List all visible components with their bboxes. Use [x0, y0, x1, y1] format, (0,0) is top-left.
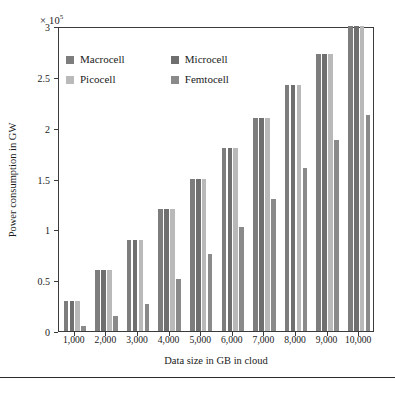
legend-swatch-icon [171, 76, 179, 84]
x-axis-title: Data size in GB in cloud [58, 355, 374, 366]
x-tick-mark [137, 332, 138, 336]
legend: MacrocellMicrocellPicocellFemtocell [66, 54, 251, 85]
legend-label: Femtocell [185, 74, 229, 85]
bar-picocell [360, 26, 365, 331]
bar-femtocell [208, 254, 213, 331]
y-tick-label: 2 [45, 123, 50, 134]
bar-microcell [70, 301, 75, 332]
bar-group [343, 28, 375, 331]
y-tick-mark [54, 129, 58, 130]
legend-label: Picocell [80, 74, 115, 85]
bar-femtocell [81, 326, 86, 331]
bar-group [312, 28, 344, 331]
x-tick-mark [169, 332, 170, 336]
bar-microcell [164, 209, 169, 331]
y-tick-mark [54, 180, 58, 181]
bar-macrocell [64, 301, 69, 332]
legend-item-femtocell[interactable]: Femtocell [171, 74, 251, 85]
legend-item-macrocell[interactable]: Macrocell [66, 54, 147, 65]
legend-item-picocell[interactable]: Picocell [66, 74, 147, 85]
bar-microcell [354, 26, 359, 331]
bar-femtocell [334, 140, 339, 331]
y-tick-label: 2.5 [38, 72, 51, 83]
bar-macrocell [222, 148, 227, 331]
bar-macrocell [95, 270, 100, 331]
y-tick-label: 1 [45, 225, 50, 236]
bar-microcell [291, 85, 296, 331]
legend-item-microcell[interactable]: Microcell [171, 54, 251, 65]
bar-femtocell [271, 199, 276, 331]
x-tick-mark [295, 332, 296, 336]
x-tick-mark [327, 332, 328, 336]
legend-label: Macrocell [80, 54, 125, 65]
legend-label: Microcell [185, 54, 228, 65]
x-tick-mark [358, 332, 359, 336]
legend-swatch-icon [66, 76, 74, 84]
x-tick-mark [232, 332, 233, 336]
page-divider-rule [0, 377, 395, 378]
bar-picocell [170, 209, 175, 331]
bar-picocell [107, 270, 112, 331]
exponent-power: 5 [60, 13, 64, 21]
bar-femtocell [366, 115, 371, 331]
bar-macrocell [190, 179, 195, 332]
bar-microcell [322, 54, 327, 331]
bar-macrocell [285, 85, 290, 331]
bar-macrocell [348, 26, 353, 331]
y-tick-label: 1.5 [38, 174, 51, 185]
bar-microcell [259, 118, 264, 332]
bar-femtocell [145, 304, 150, 331]
figure: × 105 Power consumption in GW 00.511.522… [0, 0, 395, 393]
y-axis-title-wrap: Power consumption in GW [14, 27, 28, 332]
x-tick-mark [105, 332, 106, 336]
legend-swatch-icon [66, 56, 74, 64]
bar-femtocell [239, 227, 244, 331]
bar-femtocell [176, 279, 181, 331]
bar-picocell [75, 301, 80, 332]
bar-macrocell [127, 240, 132, 332]
y-axis-title: Power consumption in GW [7, 122, 18, 237]
bar-picocell [265, 118, 270, 332]
bar-microcell [101, 270, 106, 331]
y-tick-mark [54, 332, 58, 333]
y-tick-label: 0.5 [38, 276, 51, 287]
bar-group [280, 28, 312, 331]
bar-microcell [228, 148, 233, 331]
x-tick-mark [200, 332, 201, 336]
y-tick-mark [54, 230, 58, 231]
y-tick-mark [54, 281, 58, 282]
bar-picocell [139, 240, 144, 332]
bar-femtocell [113, 316, 118, 331]
bar-macrocell [253, 118, 258, 332]
bar-group [249, 28, 281, 331]
bar-picocell [328, 54, 333, 331]
bar-picocell [233, 148, 238, 331]
x-tick-mark [74, 332, 75, 336]
x-tick-mark [263, 332, 264, 336]
y-tick-mark [54, 27, 58, 28]
bar-picocell [297, 85, 302, 331]
bar-microcell [133, 240, 138, 332]
y-tick-label: 0 [45, 327, 50, 338]
bar-picocell [202, 179, 207, 332]
bar-microcell [196, 179, 201, 332]
bar-femtocell [303, 168, 308, 331]
bar-macrocell [158, 209, 163, 331]
y-axis-exponent: × 105 [40, 13, 64, 26]
y-tick-label: 3 [45, 22, 50, 33]
y-tick-mark [54, 78, 58, 79]
legend-swatch-icon [171, 56, 179, 64]
bar-macrocell [316, 54, 321, 331]
